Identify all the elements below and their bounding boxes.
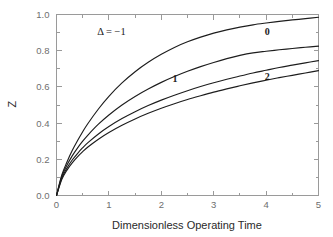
x-tick-label: 2 xyxy=(159,199,164,210)
x-tick-label: 5 xyxy=(316,199,321,210)
curve-label-1: 0 xyxy=(265,26,270,37)
curve-label-0: Δ = −1 xyxy=(97,26,126,37)
x-tick-label: 0 xyxy=(54,199,59,210)
x-tick-label: 3 xyxy=(211,199,216,210)
curve-label-2: 1 xyxy=(172,73,177,84)
x-axis-title: Dimensionless Operating Time xyxy=(112,219,262,231)
chart-figure: 012345 0.00.20.40.60.81.0 Δ = −1012 Dime… xyxy=(0,0,333,237)
y-axis-title: Z xyxy=(6,100,18,107)
y-tick-label: 1.0 xyxy=(36,9,49,20)
y-tick-label: 0.8 xyxy=(36,45,49,56)
curve-label-3: 2 xyxy=(265,71,270,82)
chart-background xyxy=(0,0,333,237)
y-tick-label: 0.0 xyxy=(36,190,49,201)
x-tick-label: 1 xyxy=(106,199,111,210)
y-tick-label: 0.2 xyxy=(36,154,49,165)
x-tick-label: 4 xyxy=(263,199,268,210)
y-tick-label: 0.6 xyxy=(36,81,49,92)
y-tick-label: 0.4 xyxy=(36,118,49,129)
chart-plot-area: 012345 0.00.20.40.60.81.0 Δ = −1012 Dime… xyxy=(0,0,333,237)
